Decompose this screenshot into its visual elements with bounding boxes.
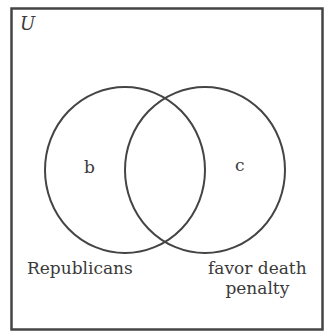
universe-label: U (20, 14, 35, 34)
region-label-c: c (235, 155, 245, 175)
set-label-favor-death-penalty: favor death penalty (208, 258, 307, 298)
set-label-republicans: Republicans (27, 258, 133, 278)
region-label-b: b (84, 157, 95, 177)
set-label-line-2: penalty (208, 278, 307, 298)
venn-diagram: U b c Republicans favor death penalty (0, 0, 330, 331)
set-label-line-1: favor death (208, 258, 307, 278)
